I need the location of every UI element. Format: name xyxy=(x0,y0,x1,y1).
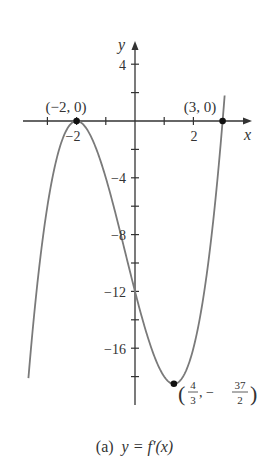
y-tick-label-m12: −12 xyxy=(104,285,126,300)
svg-text:4: 4 xyxy=(190,379,196,391)
y-axis-label: y xyxy=(116,36,126,54)
point-minimum xyxy=(171,380,178,387)
caption-prefix: (a) xyxy=(96,438,114,455)
svg-text:(: ( xyxy=(178,381,185,406)
point-left-root xyxy=(73,118,80,125)
x-tick-label-2: 2 xyxy=(191,129,198,144)
point-right-root xyxy=(219,118,226,125)
point-label-right: (3, 0) xyxy=(184,99,217,116)
y-tick-label-4: 4 xyxy=(119,58,126,73)
x-axis-arrow-icon xyxy=(243,118,252,125)
svg-text:, −: , − xyxy=(199,385,214,400)
point-label-minimum: ( 4 3 , − 37 2 ) xyxy=(178,379,257,406)
svg-text:37: 37 xyxy=(235,379,247,391)
x-tick-label-m2: −2 xyxy=(66,129,81,144)
x-axis-label: x xyxy=(243,126,251,143)
point-label-left: (−2, 0) xyxy=(46,99,87,116)
caption-equation: y = f′(x) xyxy=(122,438,174,455)
derivative-graph: y x 4 −4 −8 −12 −16 −2 2 (−2, 0) (3, 0) … xyxy=(0,0,269,476)
svg-text:3: 3 xyxy=(190,394,196,406)
y-tick-label-m8: −8 xyxy=(111,228,126,243)
svg-text:): ) xyxy=(250,381,257,406)
y-tick-label-m16: −16 xyxy=(104,342,126,357)
y-axis-arrow-icon xyxy=(132,41,139,50)
svg-text:2: 2 xyxy=(237,394,243,406)
figure-caption: (a) y = f′(x) xyxy=(0,438,269,456)
y-tick-label-m4: −4 xyxy=(111,171,126,186)
